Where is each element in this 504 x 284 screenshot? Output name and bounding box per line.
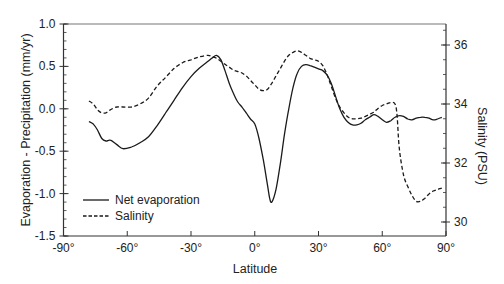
y-tick-label: -1.0 <box>35 187 56 201</box>
x-tick-label: -30° <box>180 241 202 255</box>
x-tick-label: -90° <box>52 241 74 255</box>
y-tick-label: -0.5 <box>35 144 56 158</box>
x-tick-label: 30° <box>309 241 327 255</box>
y2-tick-label: 30 <box>454 215 468 229</box>
chart-svg: -90°-60°-30°0°30°60°90°1.00.50.0-0.5-1.0… <box>0 0 504 284</box>
legend-label: Net evaporation <box>115 193 200 207</box>
x-tick-label: 60° <box>373 241 391 255</box>
x-tick-label: 0° <box>249 241 261 255</box>
x-tick-label: 90° <box>437 241 455 255</box>
legend-label: Salinity <box>115 209 154 223</box>
x-axis-title: Latitude <box>233 262 278 276</box>
x-tick-label: -60° <box>116 241 138 255</box>
legend: Net evaporationSalinity <box>83 193 200 223</box>
data-series <box>89 51 442 203</box>
y2-tick-label: 34 <box>454 97 468 111</box>
y-tick-label: 0.0 <box>39 102 56 116</box>
y-tick-label: -1.5 <box>35 229 56 243</box>
y-tick-label: 1.0 <box>39 17 56 31</box>
y-axis-title: Evaporation - Precipitation (mm/yr) <box>19 33 33 226</box>
chart-container: -90°-60°-30°0°30°60°90°1.00.50.0-0.5-1.0… <box>0 0 504 284</box>
y2-tick-label: 32 <box>454 156 468 170</box>
salinity-line <box>89 51 442 202</box>
y2-tick-label: 36 <box>454 38 468 52</box>
y-tick-label: 0.5 <box>39 59 56 73</box>
y2-axis-title: Salinity (PSU) <box>475 107 489 185</box>
net-evaporation-line <box>89 55 442 202</box>
